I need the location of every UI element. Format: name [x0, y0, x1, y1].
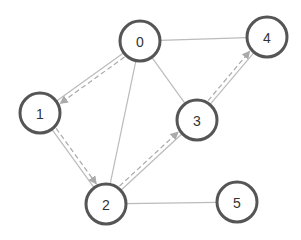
- node-label: 0: [136, 34, 144, 50]
- node-2: 2: [86, 184, 126, 224]
- highlighted-path-layer: [56, 51, 250, 186]
- edge-0-1: [56, 53, 124, 102]
- path-arrow-2-3: [119, 132, 178, 186]
- edge-2-3: [121, 134, 183, 191]
- node-label: 4: [263, 30, 271, 46]
- nodes-layer: 012345: [20, 17, 287, 224]
- node-0: 0: [120, 21, 160, 61]
- node-label: 5: [233, 195, 241, 211]
- node-4: 4: [247, 17, 287, 57]
- node-label: 3: [193, 113, 201, 129]
- node-1: 1: [20, 93, 60, 133]
- edge-0-4: [160, 38, 247, 41]
- path-arrow-0-1: [60, 57, 124, 103]
- edge-0-3: [152, 57, 186, 104]
- edge-0-2: [110, 61, 136, 185]
- path-arrow-3-4: [208, 51, 250, 100]
- path-arrow-1-2: [56, 128, 96, 183]
- node-label: 2: [102, 197, 110, 213]
- node-5: 5: [217, 182, 257, 222]
- node-3: 3: [177, 100, 217, 140]
- edges-layer: [52, 38, 254, 204]
- graph-diagram: 012345: [0, 0, 301, 240]
- node-label: 1: [36, 106, 44, 122]
- edge-3-4: [210, 52, 254, 104]
- edge-2-5: [126, 202, 217, 203]
- edge-1-2: [52, 129, 95, 188]
